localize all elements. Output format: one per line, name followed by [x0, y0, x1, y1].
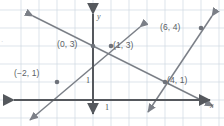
x-axis-label: x: [210, 102, 214, 110]
point-label-0-3: (0, 3): [57, 40, 77, 49]
grid-lines: [0, 0, 224, 126]
point-label-6-4: (6, 4): [160, 23, 180, 32]
graph-line-negative-slope: [33, 16, 213, 106]
point-label-4-1: (4, 1): [167, 76, 187, 85]
coordinate-plane-figure: (0, 3) (1, 3) (6, 4) (−2, 1) (4, 1) 1 1 …: [0, 0, 224, 126]
y-axis-label: y: [97, 13, 101, 21]
point-neg2-1: [55, 80, 60, 85]
point-label-1-3: (1, 3): [113, 41, 133, 50]
point-6-4: [199, 26, 204, 31]
x-axis-unit-tick-label: 1: [105, 104, 109, 112]
left-edge-mark: ·: [1, 38, 3, 45]
y-axis-unit-tick-label: 1: [86, 77, 90, 85]
point-0-3: [91, 44, 96, 49]
graph-canvas: [0, 0, 224, 126]
point-label-neg2-1: (−2, 1): [14, 69, 40, 78]
